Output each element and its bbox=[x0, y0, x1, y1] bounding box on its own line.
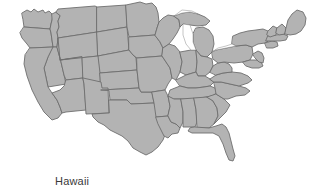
state-kentucky bbox=[176, 72, 214, 88]
hawaii-label: Hawaii bbox=[55, 175, 89, 185]
state-vermont bbox=[267, 26, 277, 37]
state-florida bbox=[188, 124, 235, 161]
us-states-map bbox=[0, 0, 321, 185]
state-maine bbox=[285, 10, 306, 35]
map-figure: Hawaii bbox=[0, 0, 321, 185]
state-connecticut-rhode-island bbox=[265, 41, 278, 48]
state-indiana bbox=[180, 50, 197, 75]
state-pennsylvania bbox=[212, 45, 253, 63]
state-michigan-upper bbox=[174, 12, 210, 27]
state-washington bbox=[22, 9, 53, 29]
state-kansas bbox=[100, 70, 139, 90]
state-oregon bbox=[20, 27, 53, 48]
state-new-hampshire bbox=[276, 24, 286, 35]
state-shapes bbox=[20, 2, 306, 161]
state-minnesota bbox=[126, 2, 159, 37]
